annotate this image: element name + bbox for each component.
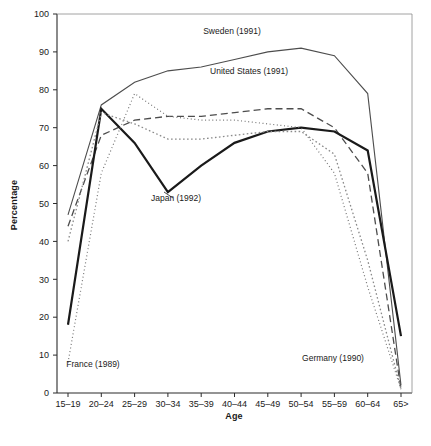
line-chart: 0102030405060708090100 15–1920–2425–2930…	[0, 0, 431, 446]
x-tick-label: 50–54	[289, 399, 314, 409]
series-label: Germany (1990)	[302, 353, 364, 363]
x-axis-tick-labels: 15–1920–2425–2930–3435–3940–4445–4950–54…	[55, 399, 408, 409]
series-label: France (1989)	[66, 359, 120, 369]
y-axis-ticks	[53, 14, 57, 393]
x-axis-title: Age	[225, 411, 243, 421]
y-tick-label: 60	[39, 161, 49, 171]
series-line-united	[68, 109, 401, 389]
y-axis-title: Percentage	[9, 180, 19, 231]
x-tick-label: 60–64	[355, 399, 380, 409]
x-tick-label: 55–59	[322, 399, 347, 409]
x-axis-ticks	[68, 393, 401, 397]
x-tick-label: 20–24	[89, 399, 114, 409]
chart-figure: 0102030405060708090100 15–1920–2425–2930…	[0, 0, 431, 446]
y-axis-tick-labels: 0102030405060708090100	[34, 9, 49, 398]
series-label: United States (1991)	[210, 66, 288, 76]
x-tick-label: 45–49	[255, 399, 280, 409]
series-label: Japan (1992)	[151, 193, 201, 203]
y-tick-label: 50	[39, 199, 49, 209]
series-label: Sweden (1991)	[203, 26, 261, 36]
x-tick-label: 35–39	[189, 399, 214, 409]
y-tick-label: 70	[39, 123, 49, 133]
y-tick-label: 0	[44, 388, 49, 398]
y-tick-label: 30	[39, 275, 49, 285]
x-tick-label: 65>	[393, 399, 408, 409]
y-tick-label: 40	[39, 237, 49, 247]
y-tick-label: 100	[34, 9, 49, 19]
x-tick-label: 15–19	[55, 399, 80, 409]
data-series-group	[68, 48, 401, 389]
series-line-france	[68, 94, 401, 390]
series-line-sweden	[68, 48, 401, 385]
series-line-japan	[68, 109, 401, 336]
series-annotations: Sweden (1991)United States (1991)Japan (…	[66, 26, 364, 369]
series-line-germany	[68, 113, 401, 390]
y-tick-label: 10	[39, 350, 49, 360]
y-tick-label: 80	[39, 85, 49, 95]
x-tick-label: 30–34	[155, 399, 180, 409]
x-tick-label: 25–29	[122, 399, 147, 409]
y-tick-label: 20	[39, 312, 49, 322]
x-tick-label: 40–44	[222, 399, 247, 409]
y-tick-label: 90	[39, 47, 49, 57]
